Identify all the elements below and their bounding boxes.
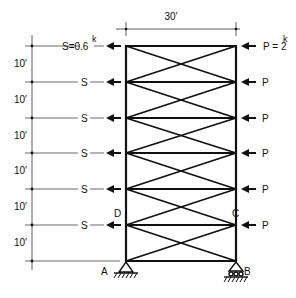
arrow-left-icon: [241, 185, 256, 193]
load-p: P: [262, 220, 269, 231]
load-s: S: [81, 184, 88, 195]
arrow-left-icon: [106, 78, 121, 86]
arrow-left-icon: [106, 42, 121, 50]
load-s: S: [81, 220, 88, 231]
story-height-label: 10′: [14, 130, 27, 141]
load-p: P: [262, 148, 269, 159]
left-load-labels: S=0.6 k S S S S S: [62, 34, 97, 231]
left-load-arrows: [106, 42, 121, 229]
frame: [126, 45, 236, 262]
left-load-leaders: [60, 46, 104, 225]
arrow-left-icon: [106, 149, 121, 157]
height-dimension: 10′ 10′ 10′ 10′ 10′ 10′: [14, 35, 120, 270]
load-s-first: S=0.6: [62, 41, 89, 52]
pin-support-icon: [114, 262, 138, 278]
load-s: S: [81, 148, 88, 159]
story-height-label: 10′: [14, 237, 27, 248]
load-p: P: [262, 113, 269, 124]
arrow-left-icon: [241, 114, 256, 122]
load-s-unit: k: [92, 34, 97, 44]
node-label-c: C: [232, 208, 239, 219]
arrow-left-icon: [106, 185, 121, 193]
arrow-left-icon: [106, 114, 121, 122]
arrow-left-icon: [241, 149, 256, 157]
node-label-d: D: [114, 208, 121, 219]
right-load-labels: P = 2 k P P P P P: [262, 34, 288, 231]
load-p: P: [262, 77, 269, 88]
node-label-a: A: [101, 266, 108, 277]
node-label-b: B: [244, 266, 251, 277]
load-s: S: [81, 113, 88, 124]
story-height-label: 10′: [14, 165, 27, 176]
arrow-left-icon: [241, 78, 256, 86]
width-dimension: 30′: [116, 11, 240, 36]
story-height-label: 10′: [14, 58, 27, 69]
arrow-left-icon: [106, 221, 121, 229]
load-s: S: [81, 77, 88, 88]
story-height-label: 10′: [14, 94, 27, 105]
right-load-arrows: [241, 42, 256, 229]
load-p-unit: k: [283, 34, 288, 44]
load-p: P: [262, 184, 269, 195]
arrow-left-icon: [241, 221, 256, 229]
braced-frame-diagram: 30′ 10′ 10′ 10′ 10′ 10′ 10′: [0, 0, 296, 298]
arrow-left-icon: [241, 42, 256, 50]
width-label: 30′: [165, 11, 178, 22]
story-height-label: 10′: [14, 201, 27, 212]
